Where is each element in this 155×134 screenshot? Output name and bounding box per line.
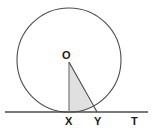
geometry-figure: O X Y T (0, 0, 155, 134)
geometry-canvas (0, 0, 155, 134)
label-point-o: O (62, 50, 71, 61)
label-point-x: X (65, 116, 72, 127)
shaded-region-oxy (69, 62, 92, 112)
label-point-y: Y (94, 116, 101, 127)
label-point-t: T (131, 116, 138, 127)
